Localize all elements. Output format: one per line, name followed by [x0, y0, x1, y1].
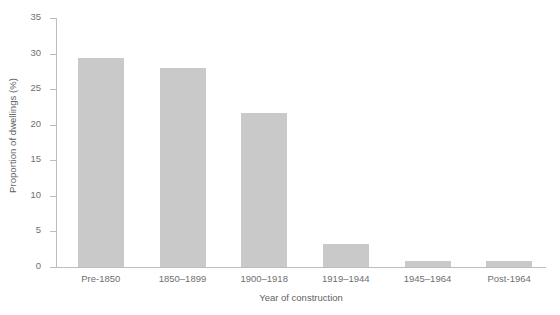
- bars-layer: [56, 18, 546, 267]
- y-axis-tick-label: 15: [30, 153, 41, 164]
- y-axis-title: Proportion of dwellings (%): [0, 0, 24, 270]
- x-axis-line: [50, 267, 546, 268]
- x-axis-category-label: 1945–1964: [387, 273, 469, 284]
- x-axis-category-label: 1919–1944: [305, 273, 387, 284]
- x-axis-category-label: 1900–1918: [223, 273, 305, 284]
- x-axis-title: Year of construction: [56, 292, 546, 303]
- y-axis-tick-label: 30: [30, 47, 41, 58]
- bar: [405, 261, 451, 267]
- y-axis-tick-label: 25: [30, 82, 41, 93]
- bar: [160, 68, 206, 267]
- y-axis-tick-label: 10: [30, 189, 41, 200]
- x-axis-category-labels: Pre-18501850–18991900–19181919–19441945–…: [56, 273, 546, 289]
- plot-area: 05101520253035: [56, 18, 546, 267]
- bar: [323, 244, 369, 267]
- x-axis-category-label: Pre-1850: [60, 273, 142, 284]
- y-axis-tick: 0: [50, 267, 56, 268]
- y-axis-title-text: Proportion of dwellings (%): [7, 78, 18, 193]
- bar: [78, 58, 124, 267]
- bar-chart-figure: Proportion of dwellings (%) 051015202530…: [0, 0, 560, 315]
- y-axis-tick-label: 20: [30, 118, 41, 129]
- y-axis-tick-label: 35: [30, 11, 41, 22]
- y-axis-tick-label: 5: [36, 224, 41, 235]
- bar: [241, 113, 287, 267]
- y-axis-tick-label: 0: [36, 260, 41, 271]
- x-axis-category-label: Post-1964: [468, 273, 550, 284]
- bar: [486, 261, 532, 267]
- x-axis-category-label: 1850–1899: [142, 273, 224, 284]
